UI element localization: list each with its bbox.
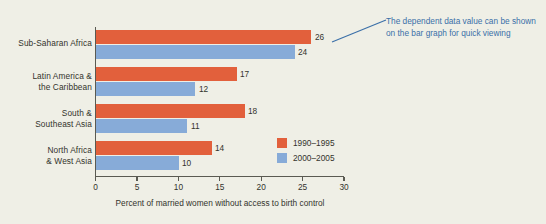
legend-swatch-icon (277, 138, 287, 148)
category-label-line2: & West Asia (0, 156, 92, 167)
category-label-line1: South & (0, 108, 92, 119)
category-label-line2: the Caribbean (0, 82, 92, 93)
legend-label: 2000–2005 (293, 153, 335, 163)
x-tick-label-10: 10 (166, 182, 190, 192)
category-label-sub-saharan-africa: Sub-Saharan Africa (0, 38, 92, 49)
bar-north-africa-west-asia-1990-1995 (96, 141, 212, 155)
bar-sub-saharan-africa-2000-2005 (96, 45, 295, 59)
category-label-line1: North Africa (0, 145, 92, 156)
category-label-north-africa-west-asia: North Africa & West Asia (0, 145, 92, 166)
x-tick-label-25: 25 (291, 182, 315, 192)
x-tick-10 (178, 177, 179, 181)
bar-value-label: 17 (240, 67, 249, 81)
legend-item-2000-2005: 2000–2005 (277, 151, 335, 165)
bar-chart: Sub-Saharan Africa Latin America & the C… (0, 0, 546, 224)
category-label-south-southeast-asia: South & Southeast Asia (0, 108, 92, 129)
x-tick-15 (219, 177, 220, 181)
x-tick-20 (261, 177, 262, 181)
category-label-line2: Southeast Asia (0, 119, 92, 130)
bar-south-southeast-asia-2000-2005 (96, 119, 187, 133)
x-axis-title: Percent of married women without access … (0, 198, 440, 208)
bar-latin-america-caribbean-1990-1995 (96, 67, 237, 81)
bar-value-label: 26 (315, 30, 324, 44)
x-tick-30 (343, 177, 344, 181)
bar-value-label: 14 (215, 141, 224, 155)
legend-item-1990-1995: 1990–1995 (277, 136, 335, 150)
legend: 1990–1995 2000–2005 (277, 136, 335, 166)
bar-value-label: 11 (191, 119, 200, 133)
x-tick-label-15: 15 (208, 182, 232, 192)
category-label-line1: Latin America & (0, 71, 92, 82)
bar-value-label: 12 (199, 82, 208, 96)
bar-sub-saharan-africa-1990-1995 (96, 30, 311, 44)
x-tick-label-20: 20 (249, 182, 273, 192)
x-tick-25 (302, 177, 303, 181)
bar-value-label: 24 (298, 45, 307, 59)
legend-label: 1990–1995 (293, 138, 335, 148)
bar-latin-america-caribbean-2000-2005 (96, 82, 195, 96)
bar-value-label: 18 (248, 104, 257, 118)
x-tick-5 (136, 177, 137, 181)
bar-value-label: 10 (182, 156, 191, 170)
bar-north-africa-west-asia-2000-2005 (96, 156, 179, 170)
x-tick-label-5: 5 (125, 182, 149, 192)
x-tick-0 (95, 177, 96, 181)
category-axis-labels: Sub-Saharan Africa Latin America & the C… (0, 0, 92, 224)
category-label-latin-america-caribbean: Latin America & the Caribbean (0, 71, 92, 92)
x-tick-label-30: 30 (332, 182, 356, 192)
category-label-line1: Sub-Saharan Africa (0, 38, 92, 49)
bar-south-southeast-asia-1990-1995 (96, 104, 245, 118)
legend-swatch-icon (277, 153, 287, 163)
annotation-leader-line-icon (330, 18, 388, 44)
x-tick-label-0: 0 (84, 182, 108, 192)
annotation-text: The dependent data value can be shown on… (386, 16, 542, 39)
